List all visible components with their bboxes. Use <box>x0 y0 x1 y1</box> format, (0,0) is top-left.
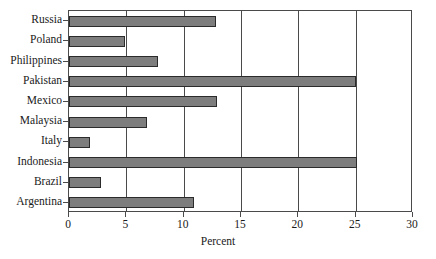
y-axis-tick <box>63 61 68 62</box>
y-axis-tick <box>63 121 68 122</box>
bar-chart: RussiaPolandPhilippinesPakistanMexicoMal… <box>0 0 436 259</box>
y-axis-tick-label: Poland <box>0 34 62 46</box>
x-axis-title: Percent <box>0 236 436 248</box>
bar-row <box>69 152 413 172</box>
bar <box>69 56 158 67</box>
y-axis-tick <box>63 101 68 102</box>
y-axis-tick-label: Philippines <box>0 55 62 67</box>
bar-row <box>69 72 413 92</box>
y-axis-tick <box>63 141 68 142</box>
y-axis-tick <box>63 81 68 82</box>
bar <box>69 117 147 128</box>
bar-row <box>69 112 413 132</box>
y-axis-tick-label: Mexico <box>0 95 62 107</box>
x-axis-tick <box>240 212 241 217</box>
x-axis-tick-label: 10 <box>168 219 198 231</box>
bar <box>69 76 356 87</box>
x-axis-tick-label: 0 <box>53 219 83 231</box>
bar <box>69 197 194 208</box>
x-axis-tick <box>355 212 356 217</box>
x-axis-tick <box>183 212 184 217</box>
x-axis-tick <box>125 212 126 217</box>
x-axis-tick-label: 20 <box>282 219 312 231</box>
bar <box>69 36 125 47</box>
plot-area <box>68 10 412 212</box>
bar <box>69 177 101 188</box>
x-axis-tick-label: 30 <box>397 219 427 231</box>
bar <box>69 16 216 27</box>
bar-row <box>69 92 413 112</box>
y-axis-tick-label: Indonesia <box>0 156 62 168</box>
y-axis-tick <box>63 162 68 163</box>
x-axis-tick <box>68 212 69 217</box>
y-axis-tick-label: Brazil <box>0 176 62 188</box>
bar <box>69 137 90 148</box>
bar <box>69 96 217 107</box>
y-axis-tick <box>63 20 68 21</box>
y-axis-tick-label: Malaysia <box>0 115 62 127</box>
x-axis-tick <box>297 212 298 217</box>
y-axis-tick <box>63 182 68 183</box>
x-axis-tick-label: 15 <box>225 219 255 231</box>
y-axis-tick-label: Argentina <box>0 196 62 208</box>
x-axis-tick <box>412 212 413 217</box>
y-axis-tick <box>63 40 68 41</box>
x-axis-tick-label: 25 <box>340 219 370 231</box>
bar-row <box>69 31 413 51</box>
x-axis-tick-label: 5 <box>110 219 140 231</box>
bar-row <box>69 132 413 152</box>
y-axis-tick-label: Pakistan <box>0 75 62 87</box>
bar-row <box>69 11 413 31</box>
y-axis-tick-label: Italy <box>0 135 62 147</box>
bar-row <box>69 193 413 213</box>
bar <box>69 157 357 168</box>
bar-row <box>69 51 413 71</box>
y-axis-tick-label: Russia <box>0 14 62 26</box>
y-axis-tick <box>63 202 68 203</box>
bar-row <box>69 173 413 193</box>
